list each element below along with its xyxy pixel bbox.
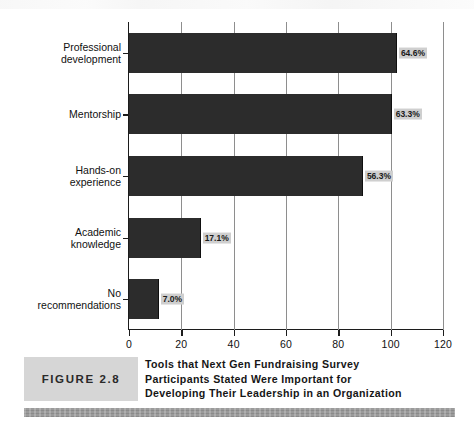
gridline-120 xyxy=(443,22,444,330)
x-tick-label-0: 0 xyxy=(126,338,132,350)
bar-chart-plot-area: 020406080100120 64.6%Professional develo… xyxy=(129,22,443,330)
caption-title: Tools that Next Gen Fundraising Survey P… xyxy=(145,357,465,401)
bar-row: 7.0%No recommendations xyxy=(129,279,443,319)
figure-caption: FIGURE 2.8 Tools that Next Gen Fundraisi… xyxy=(0,352,474,430)
y-tick xyxy=(123,176,129,177)
y-tick xyxy=(123,53,129,54)
x-tick-label-120: 120 xyxy=(434,338,452,350)
y-category-label: Hands-on experience xyxy=(70,164,121,188)
x-tick-label-80: 80 xyxy=(332,338,344,350)
bar-value-label: 63.3% xyxy=(394,109,422,120)
x-tick-80 xyxy=(338,330,339,336)
caption-title-line-1: Tools that Next Gen Fundraising Survey xyxy=(145,357,465,372)
x-tick-0 xyxy=(129,330,130,336)
x-tick-label-20: 20 xyxy=(175,338,187,350)
y-category-label: Academic knowledge xyxy=(71,226,121,250)
figure-tag-label: FIGURE 2.8 xyxy=(24,357,138,401)
y-tick xyxy=(123,114,129,115)
x-tick-120 xyxy=(443,330,444,336)
bar-row: 64.6%Professional development xyxy=(129,33,443,73)
bar-value-label: 17.1% xyxy=(203,232,231,243)
caption-title-line-3: Developing Their Leadership in an Organi… xyxy=(145,386,465,401)
bar-row: 17.1%Academic knowledge xyxy=(129,218,443,258)
bar[interactable] xyxy=(129,279,159,319)
x-tick-100 xyxy=(391,330,392,336)
bar-value-label: 7.0% xyxy=(161,294,184,305)
y-category-label: No recommendations xyxy=(38,287,121,311)
caption-footer-bar xyxy=(24,408,455,417)
y-category-label: Mentorship xyxy=(69,108,121,120)
bar-value-label: 64.6% xyxy=(399,47,427,58)
x-tick-20 xyxy=(181,330,182,336)
figure-2-8: 020406080100120 64.6%Professional develo… xyxy=(0,0,474,430)
x-tick-60 xyxy=(286,330,287,336)
bar[interactable] xyxy=(129,156,363,196)
y-category-label: Professional development xyxy=(61,41,121,65)
x-tick-label-100: 100 xyxy=(382,338,400,350)
x-tick-label-60: 60 xyxy=(280,338,292,350)
y-tick xyxy=(123,299,129,300)
bar[interactable] xyxy=(129,33,397,73)
bar-row: 63.3%Mentorship xyxy=(129,94,443,134)
x-tick-label-40: 40 xyxy=(228,338,240,350)
caption-title-line-2: Participants Stated Were Important for xyxy=(145,372,465,387)
y-tick xyxy=(123,238,129,239)
bar[interactable] xyxy=(129,218,201,258)
x-tick-40 xyxy=(234,330,235,336)
bar-value-label: 56.3% xyxy=(365,171,393,182)
bar-row: 56.3%Hands-on experience xyxy=(129,156,443,196)
bar[interactable] xyxy=(129,94,392,134)
